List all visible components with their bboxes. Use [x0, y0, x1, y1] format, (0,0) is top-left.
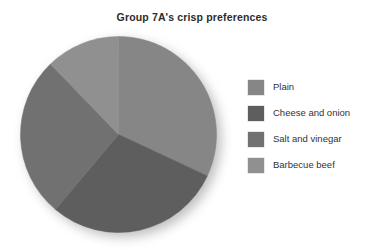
legend-swatch-icon: [248, 158, 264, 173]
chart-title: Group 7A's crisp preferences: [0, 11, 384, 23]
legend-item[interactable]: Salt and vinegar: [248, 126, 382, 152]
chart-legend: PlainCheese and onionSalt and vinegarBar…: [248, 74, 382, 178]
legend-item-label: Salt and vinegar: [273, 134, 342, 144]
legend-item[interactable]: Barbecue beef: [248, 152, 382, 178]
legend-item-label: Plain: [273, 82, 294, 92]
pie-chart-plot-area: [19, 35, 218, 234]
legend-swatch-icon: [248, 106, 264, 121]
pie-slice-group: [20, 37, 216, 233]
legend-item-label: Barbecue beef: [273, 160, 335, 170]
legend-item[interactable]: Cheese and onion: [248, 100, 382, 126]
legend-item[interactable]: Plain: [248, 74, 382, 100]
legend-item-label: Cheese and onion: [273, 108, 350, 118]
pie-chart-figure: Group 7A's crisp preferences PlainCheese…: [0, 0, 384, 250]
legend-swatch-icon: [248, 80, 264, 95]
pie-chart-svg: [19, 35, 218, 234]
legend-swatch-icon: [248, 132, 264, 147]
